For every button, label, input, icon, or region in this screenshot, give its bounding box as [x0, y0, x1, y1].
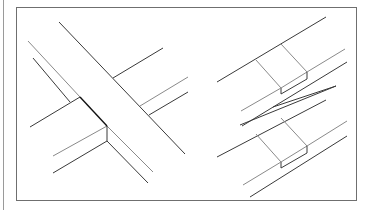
lap-joint-bottom-figure [217, 86, 347, 197]
lap-joint-top-figure [217, 17, 347, 126]
joint-diagram [0, 0, 375, 210]
cross-joint-figure [28, 22, 188, 183]
